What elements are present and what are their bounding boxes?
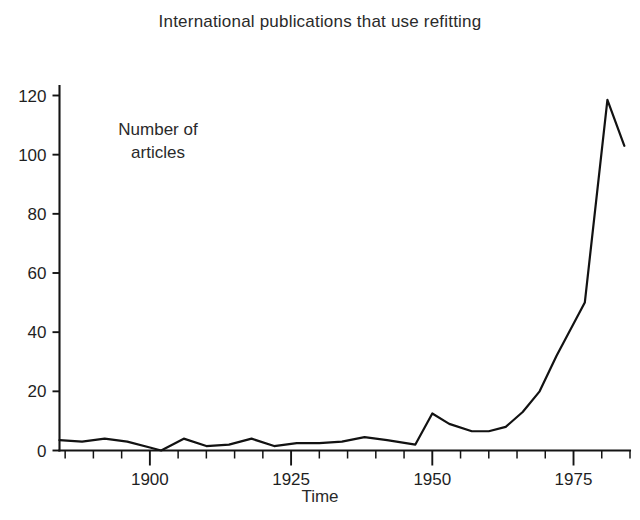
chart-plot-area: 020406080100120 1900192519501975 <box>0 0 640 520</box>
y-tick-label-group: 020406080100120 <box>18 87 46 461</box>
chart-figure: International publications that use refi… <box>0 0 640 520</box>
x-tick-label: 1925 <box>272 470 310 489</box>
x-tick-label: 1900 <box>131 470 169 489</box>
x-tick-label: 1975 <box>555 470 593 489</box>
axes-group <box>60 86 631 451</box>
y-tick-label: 80 <box>28 205 47 224</box>
data-series-line <box>60 100 625 451</box>
x-tick-label: 1950 <box>413 470 451 489</box>
y-tick-label: 40 <box>28 323 47 342</box>
y-tick-label: 20 <box>28 382 47 401</box>
x-axis-label: Time <box>0 487 640 507</box>
ticks-group <box>53 96 631 466</box>
y-tick-label: 120 <box>18 87 46 106</box>
y-tick-label: 100 <box>18 146 46 165</box>
x-tick-label-group: 1900192519501975 <box>131 470 592 489</box>
y-tick-label: 60 <box>28 264 47 283</box>
y-tick-label: 0 <box>37 442 46 461</box>
